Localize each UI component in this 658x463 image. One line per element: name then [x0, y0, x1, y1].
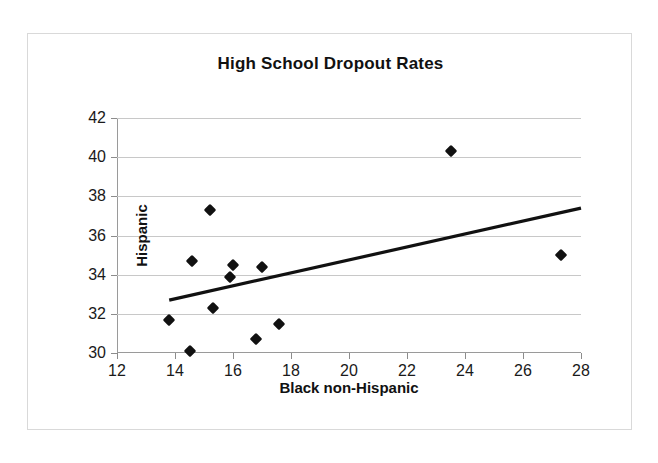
y-axis-title: Hispanic — [24, 118, 259, 353]
chart-title: High School Dropout Rates — [28, 54, 633, 74]
x-tick-label: 20 — [340, 362, 358, 380]
x-tick-label: 22 — [398, 362, 416, 380]
x-tick-label: 26 — [514, 362, 532, 380]
x-tick — [523, 353, 524, 359]
x-tick — [233, 353, 234, 359]
chart-figure: High School Dropout Rates 30323436384042… — [27, 33, 632, 430]
x-tick — [175, 353, 176, 359]
x-axis-title: Black non-Hispanic — [117, 379, 581, 396]
x-tick — [291, 353, 292, 359]
x-tick — [117, 353, 118, 359]
x-tick-label: 24 — [456, 362, 474, 380]
x-tick-label: 12 — [108, 362, 126, 380]
x-tick — [581, 353, 582, 359]
x-tick-label: 18 — [282, 362, 300, 380]
x-tick-label: 16 — [224, 362, 242, 380]
x-tick-label: 28 — [572, 362, 590, 380]
x-tick — [465, 353, 466, 359]
x-tick-label: 14 — [166, 362, 184, 380]
x-tick — [407, 353, 408, 359]
x-tick — [349, 353, 350, 359]
